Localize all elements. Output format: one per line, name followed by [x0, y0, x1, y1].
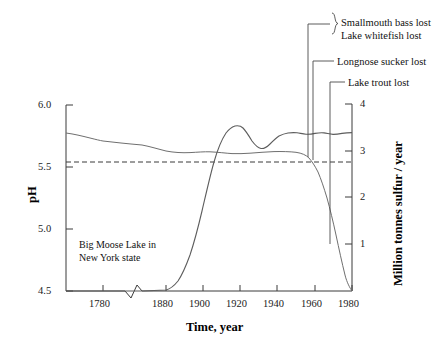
plot-area — [0, 0, 437, 347]
xtick-label-1940: 1940 — [263, 298, 284, 309]
xtick-label-1780: 1780 — [89, 298, 110, 309]
right-ytick-label-3: 3 — [360, 145, 365, 156]
left-y-axis-title: pH — [25, 186, 40, 203]
xtick-label-1880: 1880 — [152, 298, 173, 309]
left-ytick-label-5-5: 5.5 — [38, 161, 51, 172]
right-ytick-label-2: 2 — [360, 191, 365, 202]
x-axis-title: Time, year — [186, 320, 243, 335]
xtick-label-1900: 1900 — [189, 298, 210, 309]
left-ytick-label-4-5: 4.5 — [38, 285, 51, 296]
right-y-axis-title: Million tonnes sulfur / year — [391, 141, 406, 286]
plot-note-line-2: New York state — [79, 251, 140, 264]
ph-curve — [66, 133, 352, 291]
right-ytick-label-1: 1 — [360, 238, 365, 249]
leader-line-longnose-sucker — [313, 61, 334, 160]
leader-line-smallmouth-whitefish — [308, 24, 330, 157]
sulfur-curve — [66, 126, 352, 291]
event-label-lake-whitefish-lost: Lake whitefish lost — [341, 29, 421, 42]
xtick-label-1980: 1980 — [338, 298, 359, 309]
xtick-label-1960: 1960 — [301, 298, 322, 309]
brace-icon — [332, 13, 338, 34]
chart-figure: 6.0 5.5 5.0 4.5 4 3 2 1 1780 1880 1900 1… — [0, 0, 437, 347]
right-ytick-label-4: 4 — [360, 98, 365, 109]
left-ytick-label-5-0: 5.0 — [38, 223, 51, 234]
event-label-smallmouth-bass-lost: Smallmouth bass lost — [341, 16, 431, 29]
event-label-longnose-sucker-lost: Longnose sucker lost — [337, 55, 426, 68]
event-label-lake-trout-lost: Lake trout lost — [348, 76, 409, 89]
xtick-label-1920: 1920 — [226, 298, 247, 309]
left-ytick-label-6-0: 6.0 — [38, 99, 51, 110]
plot-note-line-1: Big Moose Lake in — [79, 238, 156, 251]
